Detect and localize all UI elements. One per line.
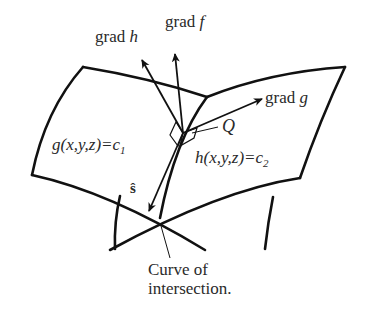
caption-leader-line (161, 226, 170, 258)
surface-g-equation: g(x,y,z)=c1 (52, 135, 126, 155)
surface-g-top-edge (83, 67, 207, 97)
caption-line-2: intersection. (148, 279, 232, 298)
surface-h-right-edge (300, 67, 345, 178)
grad-h-label: grad h (95, 27, 138, 47)
grad-f-label: grad f (165, 12, 204, 32)
point-q-label: Q (222, 116, 235, 137)
tangent-s-arrow (149, 133, 183, 211)
surface-h-lower-edge (265, 197, 273, 249)
grad-g-label: grad g (265, 88, 308, 108)
tangent-s-label: ŝ (130, 180, 136, 197)
caption-line-1: Curve of (148, 260, 232, 279)
surface-g-left-edge (32, 67, 83, 175)
surface-g-bottom-edge (32, 175, 205, 250)
surface-h-equation: h(x,y,z)=c2 (195, 148, 269, 168)
caption: Curve of intersection. (148, 260, 232, 298)
